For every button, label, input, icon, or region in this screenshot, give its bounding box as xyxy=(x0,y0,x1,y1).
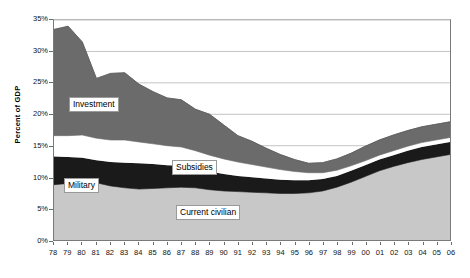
x-tick-mark xyxy=(224,242,225,245)
x-tick-mark xyxy=(96,242,97,245)
series-label-subsidies: Subsidies xyxy=(172,160,217,175)
x-tick-mark xyxy=(366,242,367,245)
x-tick-mark xyxy=(266,242,267,245)
y-tick-label: 10% xyxy=(14,173,48,182)
x-tick-mark xyxy=(124,242,125,245)
x-tick-mark xyxy=(408,242,409,245)
x-tick-mark xyxy=(323,242,324,245)
stacked-area-svg xyxy=(54,20,450,240)
x-tick-mark xyxy=(423,242,424,245)
y-tick-label: 35% xyxy=(14,14,48,23)
x-tick-mark xyxy=(252,242,253,245)
x-tick-mark xyxy=(167,242,168,245)
x-tick-mark xyxy=(295,242,296,245)
x-tick-mark xyxy=(451,242,452,245)
x-tick-mark xyxy=(138,242,139,245)
x-tick-mark xyxy=(380,242,381,245)
x-tick-mark xyxy=(352,242,353,245)
x-tick-label: 06 xyxy=(442,248,460,257)
x-tick-mark xyxy=(181,242,182,245)
y-tick-label: 0% xyxy=(14,236,48,245)
x-tick-mark xyxy=(153,242,154,245)
y-tick-label: 30% xyxy=(14,46,48,55)
chart-container: Percent of GDP 0%5%10%15%20%25%30%35% 78… xyxy=(0,0,470,278)
x-tick-mark xyxy=(67,242,68,245)
x-tick-mark xyxy=(81,242,82,245)
x-tick-mark xyxy=(280,242,281,245)
y-tick-label: 20% xyxy=(14,109,48,118)
x-tick-mark xyxy=(337,242,338,245)
x-tick-mark xyxy=(195,242,196,245)
x-tick-mark xyxy=(437,242,438,245)
x-tick-mark xyxy=(53,242,54,245)
y-tick-label: 5% xyxy=(14,204,48,213)
y-tick-label: 25% xyxy=(14,77,48,86)
series-label-investment: Investment xyxy=(69,97,119,112)
x-tick-mark xyxy=(394,242,395,245)
series-label-current-civilian: Current civilian xyxy=(176,205,240,220)
series-label-military: Military xyxy=(64,178,99,193)
x-tick-mark xyxy=(238,242,239,245)
y-tick-label: 15% xyxy=(14,141,48,150)
x-tick-mark xyxy=(209,242,210,245)
x-tick-mark xyxy=(110,242,111,245)
plot-area xyxy=(53,19,451,241)
x-tick-mark xyxy=(309,242,310,245)
